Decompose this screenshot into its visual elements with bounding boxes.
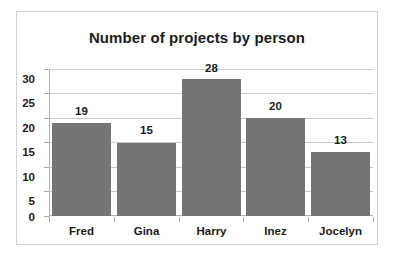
y-axis-tick-label-10: 10 <box>11 172 35 184</box>
x-axis-tick-mark-3 <box>243 217 244 222</box>
y-axis-tick-label-20: 20 <box>11 123 35 135</box>
x-axis-tick-mark-0 <box>49 217 50 222</box>
bar-gina[interactable] <box>117 143 176 217</box>
bar-value-fred: 19 <box>52 106 111 118</box>
x-axis-tick-mark-1 <box>114 217 115 222</box>
y-axis-tick-label-25: 25 <box>11 98 35 110</box>
bar-fred[interactable] <box>52 123 111 216</box>
chart-title: Number of projects by person <box>17 30 377 45</box>
x-axis-label-harry: Harry <box>182 226 241 238</box>
bar-value-gina: 15 <box>117 125 176 137</box>
y-axis-tick-label-15: 15 <box>11 147 35 159</box>
bar-jocelyn[interactable] <box>311 152 370 216</box>
x-axis-tick-mark-5 <box>373 217 374 222</box>
y-axis-tick-label-0: 0 <box>11 212 35 224</box>
bar-value-inez: 20 <box>246 101 305 113</box>
x-axis-tick-mark-2 <box>179 217 180 222</box>
x-axis-tick-mark-4 <box>308 217 309 222</box>
x-axis-label-gina: Gina <box>117 226 176 238</box>
bar-harry[interactable] <box>182 79 241 216</box>
x-axis-label-inez: Inez <box>246 226 305 238</box>
chart-container: Number of projects by person 30 25 20 15… <box>16 11 378 245</box>
y-axis-tick-label-30: 30 <box>11 74 35 86</box>
x-axis-label-fred: Fred <box>52 226 111 238</box>
bar-value-harry: 28 <box>182 63 241 75</box>
bar-inez[interactable] <box>246 118 305 216</box>
y-axis-tick-label-5: 5 <box>11 196 35 208</box>
x-axis-label-jocelyn: Jocelyn <box>311 226 370 238</box>
bar-value-jocelyn: 13 <box>311 135 370 147</box>
